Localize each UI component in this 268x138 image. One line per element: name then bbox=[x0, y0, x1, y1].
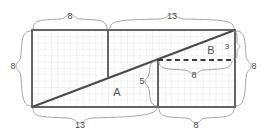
dim-label-top-left: 8 bbox=[67, 11, 72, 21]
brace-right bbox=[236, 31, 251, 106]
fibonacci-dissection-figure: 8 13 8 8 13 8 5 8 3 A B bbox=[0, 0, 268, 138]
dim-label-left: 8 bbox=[10, 61, 15, 71]
dim-label-right: 8 bbox=[251, 61, 256, 71]
dim-label-corner-small: 3 bbox=[225, 42, 230, 51]
brace-bottom-left bbox=[33, 108, 157, 123]
dim-label-bottom-left: 13 bbox=[75, 120, 85, 130]
piece-label-b: B bbox=[207, 44, 214, 56]
dim-label-inner-horizontal: 8 bbox=[191, 70, 196, 80]
piece-label-a: A bbox=[113, 86, 121, 98]
brace-left bbox=[16, 31, 31, 106]
dim-label-top-right: 13 bbox=[167, 11, 177, 21]
dim-label-bottom-right: 8 bbox=[193, 120, 198, 130]
dim-label-inner-vertical: 5 bbox=[139, 76, 144, 86]
